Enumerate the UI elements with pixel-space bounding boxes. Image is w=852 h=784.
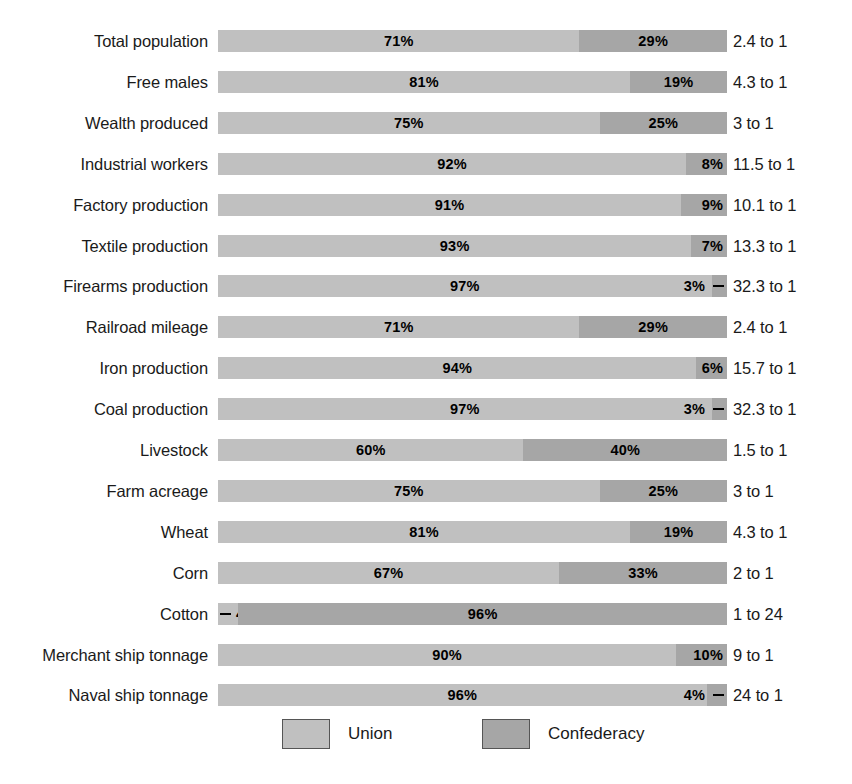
legend-label-union: Union — [348, 719, 392, 749]
chart-row: Factory production91%9%10.1 to 1 — [0, 193, 852, 217]
bar-segment-union: 90% — [218, 644, 676, 666]
stacked-bar: 71%29% — [218, 30, 727, 52]
row-category-label: Firearms production — [0, 274, 208, 298]
stacked-bar: 97%3% — [218, 398, 727, 420]
union-value-label: 75% — [218, 480, 600, 502]
row-category-label: Iron production — [0, 356, 208, 380]
bar-segment-union: 97% — [218, 398, 712, 420]
stacked-bar: 91%9% — [218, 194, 727, 216]
chart-row: Naval ship tonnage96%4%24 to 1 — [0, 683, 852, 707]
union-value-label: 94% — [218, 357, 696, 379]
stacked-bar: 67%33% — [218, 562, 727, 584]
row-ratio-label: 1.5 to 1 — [733, 438, 787, 462]
leader-dash-icon — [713, 694, 724, 696]
bar-segment-union: 75% — [218, 112, 600, 134]
confederacy-value-label: 96% — [238, 603, 727, 625]
chart-row: Firearms production97%3%32.3 to 1 — [0, 274, 852, 298]
confederacy-value-label: 29% — [579, 316, 727, 338]
row-ratio-label: 3 to 1 — [733, 111, 774, 135]
row-category-label: Naval ship tonnage — [0, 683, 208, 707]
bar-segment-confederacy: 10% — [676, 644, 727, 666]
legend-entry-confederacy: Confederacy — [482, 718, 644, 750]
bar-segment-union: 81% — [218, 521, 630, 543]
row-category-label: Coal production — [0, 397, 208, 421]
row-ratio-label: 3 to 1 — [733, 479, 774, 503]
legend-label-confederacy: Confederacy — [548, 719, 644, 749]
bar-segment-union: 71% — [218, 316, 579, 338]
bar-segment-union: 93% — [218, 235, 691, 257]
confederacy-value-label: 33% — [559, 562, 727, 584]
bar-segment-union: 96% — [218, 684, 707, 706]
union-value-label: 71% — [218, 316, 579, 338]
bar-segment-confederacy: 19% — [630, 71, 727, 93]
union-value-label: 90% — [218, 644, 676, 666]
row-ratio-label: 2.4 to 1 — [733, 315, 787, 339]
bar-segment-confederacy: 25% — [600, 112, 727, 134]
chart-row: Merchant ship tonnage90%10%9 to 1 — [0, 643, 852, 667]
row-ratio-label: 4.3 to 1 — [733, 520, 787, 544]
bar-segment-union: 97% — [218, 275, 712, 297]
row-ratio-label: 11.5 to 1 — [733, 152, 795, 176]
stacked-bar: 81%19% — [218, 521, 727, 543]
chart-row: Coal production97%3%32.3 to 1 — [0, 397, 852, 421]
row-category-label: Livestock — [0, 438, 208, 462]
row-category-label: Merchant ship tonnage — [0, 643, 208, 667]
chart-row: Wheat81%19%4.3 to 1 — [0, 520, 852, 544]
row-ratio-label: 13.3 to 1 — [733, 234, 796, 258]
confederacy-value-label: 25% — [600, 480, 727, 502]
bar-segment-union: 94% — [218, 357, 696, 379]
bar-segment-confederacy: 29% — [579, 30, 727, 52]
union-value-label: 97% — [218, 275, 712, 297]
stacked-bar: 75%25% — [218, 480, 727, 502]
row-category-label: Total population — [0, 29, 208, 53]
confederacy-value-label: 10% — [693, 644, 723, 666]
row-ratio-label: 24 to 1 — [733, 683, 783, 707]
chart-row: Livestock60%40%1.5 to 1 — [0, 438, 852, 462]
leader-dash-icon — [220, 613, 231, 615]
row-ratio-label: 2.4 to 1 — [733, 29, 787, 53]
bar-segment-confederacy: 25% — [600, 480, 727, 502]
chart-row: Textile production93%7%13.3 to 1 — [0, 234, 852, 258]
bar-segment-confederacy: 40% — [523, 439, 727, 461]
union-value-label: 71% — [218, 30, 579, 52]
chart-row: Corn67%33%2 to 1 — [0, 561, 852, 585]
union-value-label: 92% — [218, 153, 686, 175]
legend-swatch-union-icon — [282, 719, 330, 749]
confederacy-value-label: 7% — [702, 235, 723, 257]
stacked-bar: 96%4% — [218, 684, 727, 706]
bar-segment-union: 91% — [218, 194, 681, 216]
row-category-label: Wheat — [0, 520, 208, 544]
bar-segment-confederacy: 19% — [630, 521, 727, 543]
chart-legend: Union Confederacy — [0, 718, 852, 758]
chart-row: Cotton4%96%1 to 24 — [0, 602, 852, 626]
stacked-bar: 75%25% — [218, 112, 727, 134]
bar-segment-confederacy: 9% — [681, 194, 727, 216]
union-value-label: 97% — [218, 398, 712, 420]
legend-entry-union: Union — [282, 718, 392, 750]
row-ratio-label: 4.3 to 1 — [733, 70, 787, 94]
confederacy-value-label: 19% — [630, 521, 727, 543]
row-category-label: Textile production — [0, 234, 208, 258]
confederacy-value-label: 3% — [684, 275, 705, 297]
row-category-label: Wealth produced — [0, 111, 208, 135]
row-ratio-label: 1 to 24 — [733, 602, 783, 626]
row-ratio-label: 32.3 to 1 — [733, 274, 796, 298]
row-ratio-label: 10.1 to 1 — [733, 193, 796, 217]
stacked-bar: 90%10% — [218, 644, 727, 666]
confederacy-value-label: 8% — [702, 153, 723, 175]
resource-comparison-chart: Total population71%29%2.4 to 1Free males… — [0, 0, 852, 784]
confederacy-value-label: 6% — [702, 357, 723, 379]
confederacy-value-label: 9% — [702, 194, 723, 216]
confederacy-value-label: 19% — [630, 71, 727, 93]
chart-row: Iron production94%6%15.7 to 1 — [0, 356, 852, 380]
chart-row: Total population71%29%2.4 to 1 — [0, 29, 852, 53]
confederacy-value-label: 25% — [600, 112, 727, 134]
union-value-label: 96% — [218, 684, 707, 706]
confederacy-value-label: 3% — [684, 398, 705, 420]
row-ratio-label: 15.7 to 1 — [733, 356, 796, 380]
leader-dash-icon — [713, 408, 724, 410]
row-ratio-label: 2 to 1 — [733, 561, 774, 585]
row-ratio-label: 9 to 1 — [733, 643, 774, 667]
bar-segment-confederacy: 7% — [691, 235, 727, 257]
bar-segment-union: 92% — [218, 153, 686, 175]
